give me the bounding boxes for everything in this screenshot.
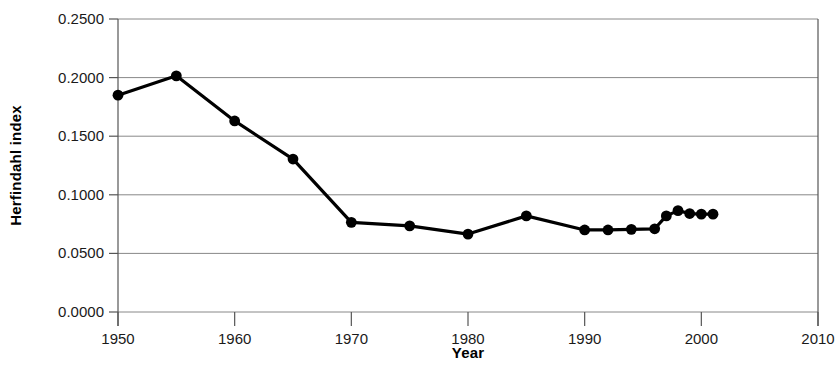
data-point (603, 225, 614, 236)
data-point (288, 154, 299, 165)
x-tick-label: 2000 (685, 330, 718, 347)
x-tick-label: 1990 (568, 330, 601, 347)
data-point (579, 225, 590, 236)
y-tick-label: 0.0000 (58, 303, 104, 320)
data-point (346, 217, 357, 228)
x-tick-label: 1950 (101, 330, 134, 347)
y-tick-label: 0.0500 (58, 244, 104, 261)
data-point (229, 116, 240, 127)
y-tick-label: 0.2500 (58, 10, 104, 27)
data-point (521, 211, 532, 222)
x-tick-label: 1960 (218, 330, 251, 347)
y-tick-label: 0.1500 (58, 127, 104, 144)
x-tick-group (118, 312, 818, 326)
gridlines-group (118, 19, 818, 312)
data-point (113, 90, 124, 101)
data-point (404, 220, 415, 231)
plot-frame (109, 19, 818, 326)
series-line (118, 76, 713, 234)
data-point (684, 208, 695, 219)
y-tick-label: 0.1000 (58, 186, 104, 203)
x-tick-label: 1970 (335, 330, 368, 347)
herfindahl-index-chart: Herfindahl index Year 0.00000.05000.1000… (0, 0, 838, 368)
y-tick-label: 0.2000 (58, 69, 104, 86)
data-series-group (113, 70, 719, 239)
data-point (626, 224, 637, 235)
data-point (463, 229, 474, 240)
x-tick-label: 1980 (451, 330, 484, 347)
data-point (673, 205, 684, 216)
plot-area: 0.00000.05000.10000.15000.20000.2500 195… (0, 0, 838, 368)
data-point (649, 223, 660, 234)
data-point (171, 70, 182, 81)
y-tick-label-group: 0.00000.05000.10000.15000.20000.2500 (58, 10, 104, 320)
x-tick-label-group: 1950196019701980199020002010 (101, 330, 834, 347)
data-point (708, 209, 719, 220)
data-point (696, 209, 707, 220)
data-point (661, 211, 672, 222)
x-tick-label: 2010 (801, 330, 834, 347)
